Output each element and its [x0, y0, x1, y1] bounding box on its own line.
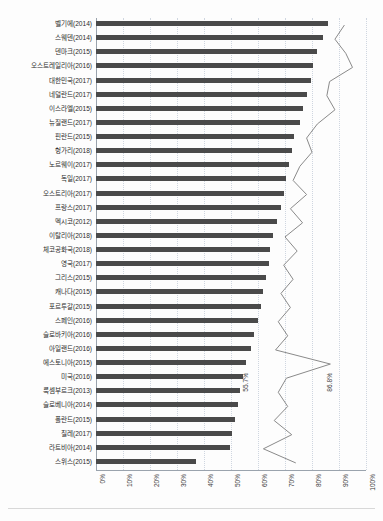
category-label: 스페인(2016): [6, 315, 92, 327]
category-label: 이스라엘(2015): [6, 103, 92, 115]
value-annotation: 86.8%: [326, 373, 333, 392]
x-tick-label: 0%: [99, 474, 106, 483]
x-tick-label: 90%: [342, 474, 349, 487]
category-label: 스웨덴(2014): [6, 32, 92, 44]
x-tick-label: 70%: [288, 474, 295, 487]
value-annotation: 55.7%: [242, 373, 249, 392]
category-label: 노르웨이(2017): [6, 159, 92, 171]
x-tick-label: 60%: [261, 474, 268, 487]
category-label: 캐나다(2015): [6, 286, 92, 298]
category-label: 슬로바키아(2016): [6, 329, 92, 341]
category-label: 핀란드(2015): [6, 131, 92, 143]
category-label: 독일(2017): [6, 173, 92, 185]
x-tick-label: 80%: [315, 474, 322, 487]
category-label: 칠레(2017): [6, 428, 92, 440]
category-axis: 벨기에(2014)스웨덴(2014)덴마크(2015)오스트레일리아(2016)…: [0, 18, 92, 470]
line-series-path: [263, 25, 352, 463]
bottom-divider: [8, 508, 375, 509]
x-tick-label: 50%: [234, 474, 241, 487]
category-label: 라트비아(2014): [6, 442, 92, 454]
x-tick-label: 100%: [369, 474, 376, 491]
category-label: 멕시코(2012): [6, 216, 92, 228]
category-label: 그리스(2015): [6, 272, 92, 284]
category-label: 영국(2017): [6, 258, 92, 270]
category-label: 이탈리아(2018): [6, 230, 92, 242]
category-label: 오스트레일리아(2016): [6, 60, 92, 72]
line-series-overlay: [96, 18, 366, 478]
category-label: 뉴질랜드(2017): [6, 117, 92, 129]
chart-container: 벨기에(2014)스웨덴(2014)덴마크(2015)오스트레일리아(2016)…: [0, 0, 383, 521]
category-label: 프랑스(2017): [6, 202, 92, 214]
category-label: 오스트리아(2017): [6, 188, 92, 200]
category-label: 아일랜드(2016): [6, 343, 92, 355]
x-tick-label: 10%: [126, 474, 133, 487]
category-label: 에스토니아(2015): [6, 357, 92, 369]
x-tick-label: 40%: [207, 474, 214, 487]
category-label: 벨기에(2014): [6, 18, 92, 30]
category-label: 네덜란드(2017): [6, 89, 92, 101]
category-label: 헝가리(2018): [6, 145, 92, 157]
category-label: 스위스(2015): [6, 456, 92, 468]
category-label: 덴마크(2015): [6, 46, 92, 58]
category-label: 미국(2016): [6, 371, 92, 383]
x-tick-label: 30%: [180, 474, 187, 487]
category-label: 포르투갈(2015): [6, 301, 92, 313]
category-label: 대한민국(2017): [6, 75, 92, 87]
gridline-100: [366, 18, 368, 470]
category-label: 슬로베니아(2014): [6, 399, 92, 411]
category-label: 폴란드(2015): [6, 414, 92, 426]
x-tick-label: 20%: [153, 474, 160, 487]
category-label: 체코공화국(2018): [6, 244, 92, 256]
category-label: 룩셈부르크(2013): [6, 385, 92, 397]
